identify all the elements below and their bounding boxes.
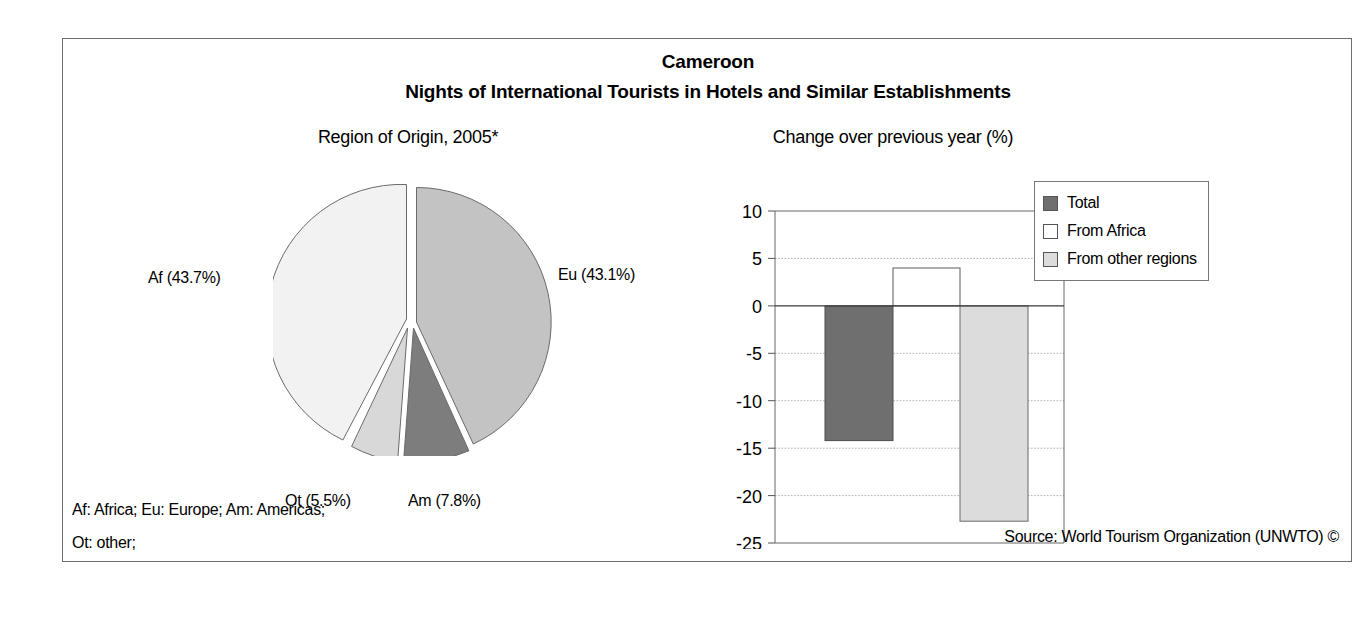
ytick-m10: -10 bbox=[736, 392, 762, 412]
legend-item-from-africa[interactable]: From Africa bbox=[1043, 217, 1197, 245]
pie-chart bbox=[273, 176, 553, 456]
ytick-m5: -5 bbox=[746, 344, 762, 364]
legend-label-from-other-regions: From other regions bbox=[1067, 250, 1197, 268]
legend-swatch-total bbox=[1043, 196, 1058, 211]
source-attribution: Source: World Tourism Organization (UNWT… bbox=[1004, 528, 1339, 546]
ytick-0: 0 bbox=[752, 297, 762, 317]
bar-total bbox=[825, 306, 893, 441]
pie-chart-svg bbox=[273, 176, 553, 456]
y-axis-tick-labels: 10 5 0 -5 -10 -15 -20 -25 bbox=[736, 202, 762, 549]
pie-label-africa: Af (43.7%) bbox=[148, 269, 221, 287]
chart-subtitle: Nights of International Tourists in Hote… bbox=[63, 81, 1353, 103]
pie-label-europe: Eu (43.1%) bbox=[558, 266, 635, 284]
bar-chart-svg: 10 5 0 -5 -10 -15 -20 -25 bbox=[663, 159, 1343, 549]
bar-from-other-regions bbox=[960, 306, 1028, 521]
pie-chart-title: Region of Origin, 2005* bbox=[168, 127, 648, 148]
bar-chart-legend: Total From Africa From other regions bbox=[1034, 181, 1209, 281]
legend-label-from-africa: From Africa bbox=[1067, 222, 1146, 240]
pie-label-americas: Am (7.8%) bbox=[408, 492, 481, 510]
legend-label-total: Total bbox=[1067, 194, 1099, 212]
ytick-m25: -25 bbox=[736, 534, 762, 549]
bar-from-africa bbox=[893, 268, 960, 306]
legend-swatch-from-other-regions bbox=[1043, 252, 1058, 267]
abbreviation-note-line-1: Af: Africa; Eu: Europe; Am: Americas; bbox=[72, 501, 325, 519]
ytick-5: 5 bbox=[752, 249, 762, 269]
page-title: Cameroon bbox=[63, 51, 1353, 73]
y-axis-ticks bbox=[768, 211, 775, 543]
chart-figure: Cameroon Nights of International Tourist… bbox=[62, 38, 1356, 562]
legend-swatch-from-africa bbox=[1043, 224, 1058, 239]
ytick-m15: -15 bbox=[736, 439, 762, 459]
figure-frame: Cameroon Nights of International Tourist… bbox=[62, 38, 1352, 562]
legend-item-from-other-regions[interactable]: From other regions bbox=[1043, 245, 1197, 273]
bar-chart-title: Change over previous year (%) bbox=[663, 127, 1123, 148]
abbreviation-note-line-2: Ot: other; bbox=[72, 534, 136, 552]
ytick-10: 10 bbox=[742, 202, 762, 222]
bar-chart: 10 5 0 -5 -10 -15 -20 -25 bbox=[663, 159, 1343, 549]
legend-item-total[interactable]: Total bbox=[1043, 189, 1197, 217]
ytick-m20: -20 bbox=[736, 487, 762, 507]
